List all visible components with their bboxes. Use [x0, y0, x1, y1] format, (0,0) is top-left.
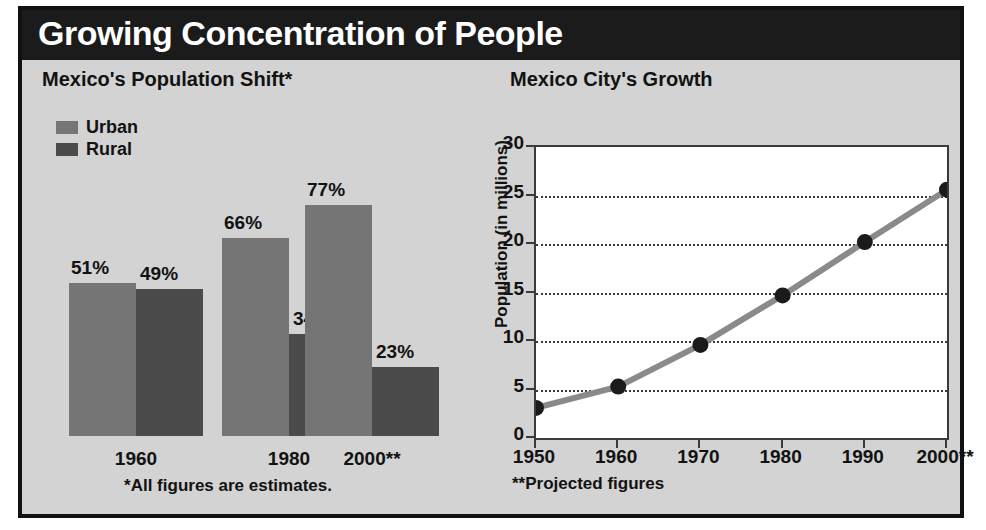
y-tick-mark-0	[526, 436, 534, 438]
bar-category-2000: 2000**	[291, 448, 453, 470]
bar-rural-2000	[372, 367, 439, 436]
line-chart-plot-area	[534, 145, 949, 440]
chart-figure: Growing Concentration of People Mexico's…	[18, 6, 964, 518]
page-title: Growing Concentration of People	[38, 14, 563, 53]
legend-label-rural: Rural	[86, 139, 132, 160]
bar-value-urban-1980: 66%	[224, 212, 262, 234]
bar-rural-1960	[136, 289, 203, 436]
legend-item-rural: Rural	[56, 138, 138, 160]
legend-swatch-urban-icon	[56, 121, 78, 134]
y-tick-label-0: 0	[484, 423, 524, 445]
x-tick-label-1960: 1960	[574, 446, 658, 468]
data-point-1980	[775, 287, 791, 303]
legend-item-urban: Urban	[56, 116, 138, 138]
x-tick-label-2000: 2000**	[903, 446, 986, 468]
bar-chart-legend: Urban Rural	[56, 116, 138, 160]
y-tick-label-20: 20	[484, 229, 524, 251]
bar-value-urban-2000: 77%	[307, 179, 345, 201]
y-tick-mark-15	[526, 291, 534, 293]
data-point-1970	[692, 337, 708, 353]
y-tick-mark-10	[526, 339, 534, 341]
bar-urban-1980	[222, 238, 289, 436]
bar-value-rural-2000: 23%	[376, 341, 414, 363]
x-tick-label-1990: 1990	[821, 446, 905, 468]
bar-urban-2000	[305, 205, 372, 436]
y-tick-label-10: 10	[484, 326, 524, 348]
bar-value-urban-1960: 51%	[71, 257, 109, 279]
bar-category-1960: 1960	[55, 448, 217, 470]
bar-urban-1960	[69, 283, 136, 436]
bar-chart: Urban Rural 51% 49% 66% 34% 77% 23% 1960…	[22, 54, 452, 518]
line-chart: Population (in millions) 051015202530 19…	[452, 54, 960, 518]
bar-chart-footnote: *All figures are estimates.	[38, 476, 418, 496]
data-point-1990	[857, 234, 873, 250]
legend-label-urban: Urban	[86, 117, 138, 138]
y-tick-mark-30	[526, 145, 534, 147]
y-tick-label-15: 15	[484, 278, 524, 300]
x-tick-label-1980: 1980	[739, 446, 823, 468]
y-tick-label-25: 25	[484, 181, 524, 203]
y-tick-mark-20	[526, 242, 534, 244]
x-tick-label-1950: 1950	[492, 446, 576, 468]
data-point-1950	[536, 400, 544, 416]
line-chart-footnote: **Projected figures	[512, 474, 664, 494]
header-bar: Growing Concentration of People	[22, 10, 960, 60]
y-tick-mark-25	[526, 194, 534, 196]
line-chart-series-svg	[536, 147, 947, 438]
y-tick-label-5: 5	[484, 375, 524, 397]
data-point-1960	[610, 379, 626, 395]
x-tick-label-1970: 1970	[656, 446, 740, 468]
bar-value-rural-1960: 49%	[140, 263, 178, 285]
y-tick-mark-5	[526, 388, 534, 390]
legend-swatch-rural-icon	[56, 143, 78, 156]
y-tick-label-30: 30	[484, 132, 524, 154]
